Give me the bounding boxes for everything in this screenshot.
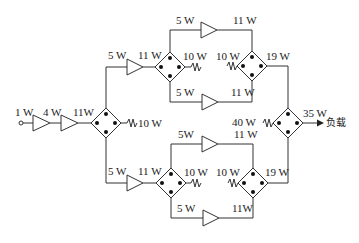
upper-amp-out-label: 11 W: [138, 50, 162, 61]
driver2-output-label: 11W: [73, 107, 94, 118]
amplifier-icon: [127, 175, 143, 191]
hybrid-splitter-icon: [91, 108, 121, 138]
upper-bottom-amp-out-label: 11 W: [231, 87, 255, 98]
upper-splitter-load-label: 10 W: [183, 51, 207, 62]
amplifier-icon: [202, 136, 218, 152]
amplifier-icon: [202, 94, 218, 110]
load-label: 负载: [326, 117, 346, 128]
lower-combiner-load-label: 10 W: [216, 167, 240, 178]
lower-splitter-load-label: 10 W: [184, 167, 208, 178]
lower-amp-out-label: 11 W: [138, 166, 162, 177]
final-output-label: 35 W: [303, 108, 327, 119]
input-power-label: 1 W: [15, 107, 33, 118]
resistor-load-icon: [127, 119, 137, 127]
resistor-load-icon: [228, 179, 238, 187]
lower-top-amp-out-label: 11 W: [234, 129, 258, 140]
hybrid-combiner-icon: [273, 108, 303, 138]
upper-top-amp-in-label: 5 W: [176, 15, 194, 26]
driver1-output-label: 4 W: [43, 107, 61, 118]
amplifier-icon: [201, 22, 217, 38]
upper-bottom-amp-in-label: 5 W: [176, 87, 194, 98]
resistor-load-icon: [191, 63, 201, 71]
lower-top-amp-in-label: 5W: [178, 129, 194, 140]
splitter1-load-label: 10 W: [138, 118, 162, 129]
resistor-load-icon: [227, 62, 237, 70]
amplifier-icon: [203, 210, 219, 226]
amplifier-combining-diagram: 1 W 4 W 11W 10 W 5 W 11 W 10 W 5 W 11 W …: [0, 0, 359, 243]
final-combiner-load-label: 40 W: [232, 117, 256, 128]
input-port-icon: [19, 121, 23, 125]
upper-combiner-out-label: 19 W: [266, 51, 290, 62]
amplifier-icon: [127, 59, 143, 75]
output-arrow-icon: [317, 120, 324, 127]
lower-bottom-amp-in-label: 5 W: [177, 203, 195, 214]
upper-top-amp-out-label: 11 W: [233, 15, 257, 26]
resistor-load-icon: [191, 179, 201, 187]
lower-amp-in-label: 5 W: [108, 166, 126, 177]
upper-combiner-load-label: 10 W: [216, 51, 240, 62]
resistor-load-icon: [263, 119, 273, 127]
upper-amp-in-label: 5 W: [108, 50, 126, 61]
hybrid-combiner-icon: [237, 51, 267, 81]
lower-combiner-out-label: 19 W: [265, 167, 289, 178]
hybrid-combiner-icon: [238, 168, 268, 198]
lower-bottom-amp-out-label: 11W: [232, 203, 253, 214]
